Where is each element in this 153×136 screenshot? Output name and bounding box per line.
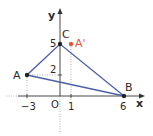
- y-tick-5: 5: [50, 38, 56, 49]
- triangle-abc: [27, 44, 124, 96]
- point-c: [58, 42, 62, 46]
- axes: [18, 12, 141, 96]
- x-tick-1: 1: [68, 101, 74, 112]
- x-tick-neg3: −3: [21, 101, 36, 112]
- coordinate-diagram: A B C A' y x O −3 1 6 2 5: [0, 0, 153, 136]
- point-a: [25, 73, 29, 77]
- y-axis-label: y: [48, 9, 55, 22]
- origin-label: O: [51, 99, 59, 110]
- x-tick-6: 6: [120, 101, 126, 112]
- tick-marks: [27, 75, 71, 98]
- point-b: [122, 94, 126, 98]
- y-axis-arrow-icon: [58, 8, 63, 14]
- label-b: B: [125, 81, 133, 94]
- label-a-prime: A': [75, 37, 86, 50]
- guide-lines: [6, 44, 71, 132]
- y-tick-2: 2: [50, 64, 56, 75]
- x-axis-label: x: [136, 97, 143, 110]
- label-a: A: [13, 69, 21, 82]
- label-c: C: [62, 28, 70, 41]
- point-a-prime: [69, 42, 73, 46]
